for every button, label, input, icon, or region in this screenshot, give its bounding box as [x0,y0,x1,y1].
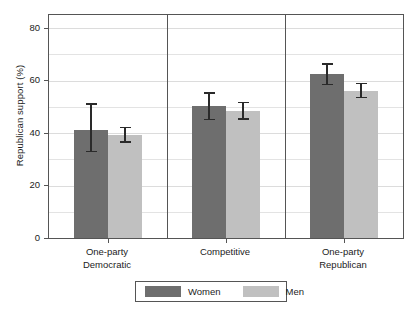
legend-label-men: Men [286,286,304,297]
y-tick-label: 60 [16,74,40,85]
y-tick [44,28,49,29]
bar-men-2 [344,91,378,238]
error-cap-lower [238,118,249,120]
error-cap-lower [356,97,367,99]
bar-men-1 [226,111,260,238]
error-bar-men-2 [360,84,362,98]
y-tick [44,80,49,81]
error-bar-men-1 [242,103,244,119]
x-tick [108,238,109,243]
error-cap-upper [356,83,367,85]
legend-swatch-men [243,286,279,297]
x-tick-label-0: One-party Democratic [52,246,162,271]
y-tick [44,185,49,186]
error-cap-upper [204,92,215,94]
error-bar-women-0 [90,104,92,151]
gridline-major [49,28,403,29]
y-tick-label: 80 [16,22,40,33]
error-bar-women-2 [326,64,328,85]
error-bar-women-1 [208,93,210,119]
error-cap-lower [204,119,215,121]
legend: Women Men [135,281,287,302]
error-cap-lower [120,141,131,143]
error-cap-upper [238,102,249,104]
error-cap-upper [120,127,131,129]
error-cap-upper [322,63,333,65]
bar-women-2 [310,74,344,238]
x-tick [344,238,345,243]
x-tick-label-1: Competitive [170,246,280,259]
error-cap-lower [322,84,333,86]
y-tick-label: 20 [16,179,40,190]
gridline-minor [49,54,403,55]
y-tick [44,238,49,239]
plot-inner [49,15,403,238]
y-tick-label: 40 [16,127,40,138]
legend-swatch-women [145,286,181,297]
y-tick-label: 0 [16,232,40,243]
bar-chart-figure: Republican support (%) 020406080 One-par… [0,0,414,311]
error-bar-men-0 [124,127,126,142]
group-divider [167,15,168,238]
plot-area [48,14,404,239]
error-cap-lower [86,151,97,153]
group-divider [285,15,286,238]
legend-label-women: Women [188,286,221,297]
legend-item-men: Men [243,286,304,297]
x-tick-label-2: One-party Republican [288,246,398,271]
bar-men-0 [108,135,142,238]
y-tick [44,133,49,134]
bar-women-1 [192,106,226,238]
legend-item-women: Women [145,286,221,297]
error-cap-upper [86,103,97,105]
x-tick [226,238,227,243]
gridline-major [49,81,403,82]
